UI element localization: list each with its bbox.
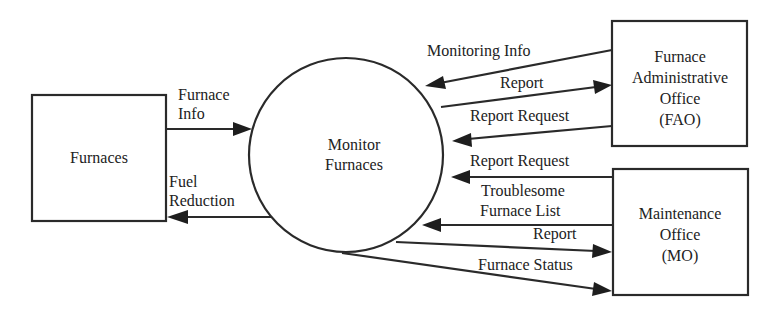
arrowhead-icon (425, 76, 446, 89)
flow-label: Furnace Status (478, 256, 573, 273)
flow-label: Monitoring Info (427, 42, 531, 60)
flow-troublesome-list[interactable]: Troublesome Furnace List (422, 182, 613, 232)
fao-label-line2: Administrative (632, 69, 728, 86)
process-circle (249, 58, 443, 252)
process-label-line1: Monitor (328, 136, 381, 153)
arrowhead-icon (592, 244, 612, 258)
arrowhead-icon (451, 170, 470, 184)
furnaces-entity[interactable]: Furnaces (32, 95, 166, 221)
mo-entity[interactable]: Maintenance Office (MO) (613, 169, 748, 295)
flow-label: Report Request (470, 152, 570, 170)
fao-label-line1: Furnace (654, 48, 706, 65)
arrowhead-icon (593, 80, 612, 94)
flow-line (396, 242, 596, 251)
monitor-furnaces-process[interactable]: Monitor Furnaces (249, 58, 443, 252)
flow-report-mo[interactable]: Report (396, 225, 612, 258)
fao-entity[interactable]: Furnace Administrative Office (FAO) (612, 21, 747, 146)
mo-label-line2: Office (660, 226, 701, 243)
flow-label: Report Request (470, 107, 570, 125)
dfd-canvas: Furnaces Monitor Furnaces Furnace Admini… (0, 0, 782, 313)
flow-report-request-mo[interactable]: Report Request (451, 152, 613, 184)
arrowhead-icon (422, 218, 441, 232)
flow-label-line1: Furnace (178, 86, 230, 103)
flow-line (468, 126, 612, 139)
flow-furnace-info[interactable]: Furnace Info (166, 86, 252, 136)
mo-label-line3: (MO) (662, 247, 698, 265)
mo-label-line1: Maintenance (639, 205, 722, 222)
flow-label-line2: Reduction (169, 192, 235, 209)
arrowhead-icon (233, 122, 252, 136)
flow-furnace-status[interactable]: Furnace Status (342, 253, 612, 296)
arrowhead-icon (452, 133, 472, 147)
flow-report-request-fao[interactable]: Report Request (452, 107, 612, 147)
flow-label-line2: Furnace List (480, 202, 561, 219)
arrowhead-icon (167, 210, 188, 224)
process-label-line2: Furnaces (325, 156, 383, 173)
furnaces-label: Furnaces (70, 149, 128, 166)
flow-label-line2: Info (178, 105, 205, 122)
fao-label-line3: Office (660, 90, 701, 107)
flow-label-line1: Fuel (169, 173, 198, 190)
flow-label: Report (500, 74, 544, 92)
flow-label-line1: Troublesome (481, 182, 565, 199)
flow-label: Report (533, 225, 577, 243)
fao-label-line4: (FAO) (659, 111, 700, 129)
arrowhead-icon (592, 282, 612, 296)
